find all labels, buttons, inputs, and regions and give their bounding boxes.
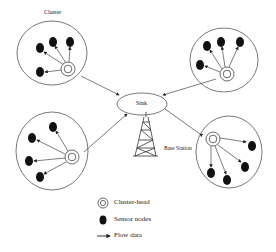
sensor-node-icon xyxy=(207,168,215,178)
legend-sensor-node-icon xyxy=(100,216,107,225)
legend-cluster-head-icon xyxy=(98,198,108,208)
cluster-head-icon xyxy=(220,67,234,81)
sensor-node-icon xyxy=(217,37,225,47)
sensor-node-icon xyxy=(236,37,244,47)
sensor-node-icon xyxy=(49,122,57,132)
legend-label-sensor-nodes: Sensor nodes xyxy=(114,215,151,223)
sensor-node-icon xyxy=(36,43,44,53)
base-station-tower-icon xyxy=(133,112,158,156)
cluster-boundary-top-left xyxy=(17,21,87,85)
cluster-head-icon xyxy=(65,150,79,164)
legend-label-cluster-head: Cluster-head xyxy=(114,198,150,206)
sensor-node-icon xyxy=(223,175,231,185)
cluster-head-icon xyxy=(206,132,220,146)
sensor-node-icon xyxy=(248,141,256,151)
sensor-node-icon xyxy=(28,133,36,143)
sensor-node-icon xyxy=(49,37,57,47)
wsn-cluster-diagram: Cluster Sink Base Station Cluster-head S… xyxy=(0,0,276,252)
sensor-node-icon xyxy=(25,156,33,166)
sensor-node-icon xyxy=(241,162,249,172)
legend-label-flow-data: Flow data xyxy=(114,231,142,239)
sensor-node-icon xyxy=(36,172,44,182)
sensor-node-icon xyxy=(203,41,211,51)
base-station-label: Base Station xyxy=(164,145,192,151)
sink-label: Sink xyxy=(136,100,147,106)
sensor-node-icon xyxy=(66,37,74,47)
sensor-node-icon xyxy=(36,67,44,77)
cluster-label: Cluster xyxy=(44,9,61,15)
cluster-head-icon xyxy=(61,62,75,76)
sensor-node-icon xyxy=(196,60,204,70)
